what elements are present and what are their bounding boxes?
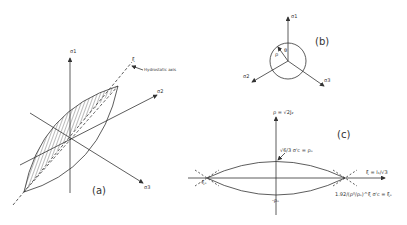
panel-a bbox=[13, 58, 157, 205]
label-theta-b: θ bbox=[284, 48, 287, 53]
panel-c bbox=[188, 117, 385, 215]
label-sigma1-a: σ1 bbox=[70, 49, 76, 54]
label-sigma2-b: σ2 bbox=[243, 74, 249, 79]
rho-axis-label: ρ = √2J₂ bbox=[273, 110, 293, 115]
panel-a-label: (a) bbox=[92, 186, 106, 196]
neg-rho0-label: -ρₒ bbox=[272, 198, 279, 203]
panel-b-label: (b) bbox=[315, 37, 329, 47]
xi-axis-label: ξ = I₁/√3 bbox=[366, 170, 388, 175]
label-sigma1-b: σ1 bbox=[291, 14, 297, 19]
hydrostatic-axis bbox=[13, 62, 132, 205]
label-sigma3-a: σ3 bbox=[144, 185, 150, 190]
hydrostatic-axis-label: Hydrostatic axis bbox=[144, 68, 176, 72]
panel-c-label: (c) bbox=[337, 130, 350, 140]
label-sigma2-a: σ2 bbox=[157, 89, 163, 94]
label-rho-b: ρ bbox=[275, 52, 278, 57]
label-sigma3-b: σ3 bbox=[324, 78, 330, 83]
rho0-label: √6/3 σ'c = ρₒ bbox=[280, 148, 313, 153]
neg-xi0-label: -ξₒ bbox=[200, 180, 207, 185]
panel-b bbox=[252, 17, 324, 86]
xi0-label: 1.92/(ρ⁰/ρₒ)^ξ σ'c = ξₒ bbox=[335, 192, 392, 197]
label-xi-a: ξ bbox=[132, 57, 135, 62]
